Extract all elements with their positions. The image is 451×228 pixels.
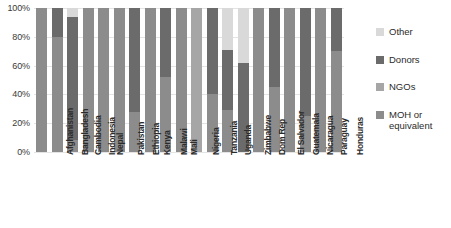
x-axis-label-cell: Uganda <box>220 153 236 228</box>
x-axis: AfghanistanBangladeshCambodiaIndonesiaNe… <box>34 153 344 228</box>
legend-label: Donors <box>389 54 420 66</box>
x-axis-label-cell: Ethiopia <box>127 153 143 228</box>
x-axis-label-cell: Honduras <box>329 153 345 228</box>
legend-label: MOH or equivalent <box>389 109 432 132</box>
legend-swatch-icon <box>376 28 384 36</box>
x-axis-label-cell: Tanzania <box>205 153 221 228</box>
x-axis-tick-label: Cambodia <box>93 116 103 156</box>
x-axis-tick-label: Zimbabwe <box>263 115 273 155</box>
bar-group[interactable] <box>34 8 50 152</box>
bar-segment[interactable] <box>67 8 78 17</box>
x-axis-tick-label: Kenya <box>163 130 173 155</box>
x-axis-tick-label: Nepal <box>115 133 125 155</box>
x-axis-tick-label: Malawi <box>179 128 189 155</box>
bar-group[interactable] <box>50 8 66 152</box>
x-axis-label-cell: Cambodia <box>65 153 81 228</box>
x-axis-tick-label: Afghanistan <box>65 108 75 155</box>
x-axis-tick-label: Bangladesh <box>80 109 90 155</box>
x-axis-tick-label: El Salvador <box>296 111 306 155</box>
bar-segment[interactable] <box>238 8 249 63</box>
x-axis-tick-label: Honduras <box>355 117 365 155</box>
x-axis-tick-label: Guatemala <box>311 113 321 155</box>
x-axis-tick-label: Nicaragua <box>325 116 335 155</box>
bar-segment[interactable] <box>300 8 311 116</box>
stacked-bar[interactable] <box>191 8 202 152</box>
x-axis-label-cell: Nigeria <box>189 153 205 228</box>
stacked-bar-chart: 100%80%60%40%20%0% AfghanistanBangladesh… <box>0 0 451 228</box>
x-axis-label-cell: Mali <box>174 153 190 228</box>
x-axis-tick-label: Dom Rep <box>277 119 287 155</box>
bar-segment[interactable] <box>52 8 63 37</box>
x-axis-label-cell: Pakistan <box>112 153 128 228</box>
x-axis-label-cell: Bangladesh <box>50 153 66 228</box>
x-axis-label-cell: Afghanistan <box>34 153 50 228</box>
stacked-bar[interactable] <box>52 8 63 152</box>
x-axis-label-cell: Nepal <box>96 153 112 228</box>
bar-segment[interactable] <box>207 8 218 94</box>
legend-item[interactable]: Donors <box>376 54 451 66</box>
y-axis-tick-label: 0% <box>17 147 30 157</box>
legend-item[interactable]: Other <box>376 26 451 38</box>
y-axis-tick-label: 60% <box>12 61 30 71</box>
x-axis-label-cell: El Salvador <box>267 153 283 228</box>
legend-swatch-icon <box>376 111 384 119</box>
y-axis-tick-label: 40% <box>12 89 30 99</box>
x-axis-label-cell: Zimbabwe <box>236 153 252 228</box>
bar-segment[interactable] <box>129 8 140 112</box>
bar-segment[interactable] <box>222 8 233 50</box>
legend-swatch-icon <box>376 56 384 64</box>
bar-segment[interactable] <box>160 8 171 77</box>
x-axis-tick-label: Nigeria <box>210 128 220 155</box>
y-axis-tick-label: 20% <box>12 118 30 128</box>
legend-item[interactable]: NGOs <box>376 81 451 93</box>
legend-label: Other <box>389 26 413 38</box>
x-axis-label-cell: Malawi <box>158 153 174 228</box>
x-axis-label-cell: Dom Rep <box>251 153 267 228</box>
bar-segment[interactable] <box>222 50 233 110</box>
x-axis-label-cell: Indonesia <box>81 153 97 228</box>
bar-segment[interactable] <box>36 8 47 152</box>
bar-segment[interactable] <box>191 8 202 152</box>
bar-segment[interactable] <box>52 37 63 152</box>
x-axis-label-cell: Kenya <box>143 153 159 228</box>
chart-legend: OtherDonorsNGOsMOH or equivalent <box>376 26 451 148</box>
legend-item[interactable]: MOH or equivalent <box>376 109 451 132</box>
x-axis-tick-label: Pakistan <box>136 122 146 155</box>
x-axis-tick-label: Tanzania <box>229 121 239 155</box>
x-axis-label-cell: Paraguay <box>313 153 329 228</box>
y-axis-tick-label: 100% <box>7 3 30 13</box>
x-axis-label-cell: Guatemala <box>282 153 298 228</box>
y-axis: 100%80%60%40%20%0% <box>0 0 33 160</box>
x-axis-label-cell: Nicaragua <box>298 153 314 228</box>
legend-swatch-icon <box>376 83 384 91</box>
x-axis-tick-label: Ethiopia <box>151 123 161 155</box>
x-axis-tick-label: Paraguay <box>339 118 349 155</box>
bar-group[interactable] <box>189 8 205 152</box>
stacked-bar[interactable] <box>36 8 47 152</box>
bar-segment[interactable] <box>269 8 280 87</box>
legend-label: NGOs <box>389 81 415 93</box>
bar-segment[interactable] <box>331 8 342 51</box>
x-axis-tick-label: Uganda <box>243 125 253 155</box>
y-axis-tick-label: 80% <box>12 32 30 42</box>
